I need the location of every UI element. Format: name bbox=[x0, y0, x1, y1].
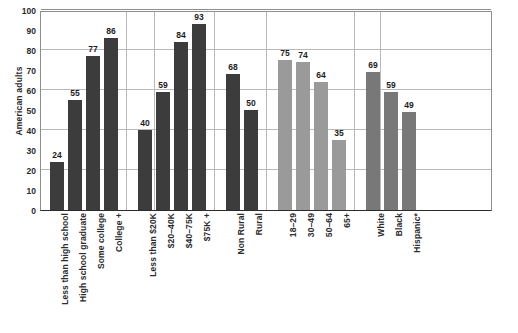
bar-value-label: 84 bbox=[176, 30, 185, 40]
x-axis-category-labels: Less than high schoolHigh school graduat… bbox=[40, 213, 492, 333]
y-axis-tick-label: 60 bbox=[27, 86, 36, 96]
bar bbox=[192, 24, 206, 210]
bar bbox=[314, 82, 328, 210]
x-axis-tick-label: High school graduate bbox=[78, 213, 88, 302]
bar bbox=[384, 92, 398, 210]
y-axis-tick-label: 20 bbox=[27, 166, 36, 176]
bar-value-label: 35 bbox=[334, 128, 343, 138]
y-axis-tick-labels: 0102030405060708090100 bbox=[0, 0, 40, 230]
bar bbox=[278, 60, 292, 210]
x-axis-tick-label: 50–64 bbox=[324, 213, 334, 237]
bar bbox=[156, 92, 170, 210]
x-axis-tick-label: Less than $20K bbox=[148, 213, 158, 277]
x-axis-tick-label: $40–75K bbox=[184, 213, 194, 248]
bar-value-label: 74 bbox=[298, 50, 307, 60]
x-axis-tick-label: 65+ bbox=[342, 213, 352, 228]
bar-value-label: 24 bbox=[52, 150, 61, 160]
x-axis-tick-label: $20–40K bbox=[166, 213, 176, 248]
bar-value-label: 59 bbox=[386, 80, 395, 90]
x-axis-tick-label: College + bbox=[114, 213, 124, 252]
bar bbox=[296, 62, 310, 210]
bar-value-label: 49 bbox=[404, 100, 413, 110]
bar-series: 2455778640598493685075746435695949 bbox=[41, 12, 491, 210]
bar-value-label: 69 bbox=[368, 60, 377, 70]
plot-area: 2455778640598493685075746435695949 bbox=[40, 11, 492, 211]
x-axis-tick-label: Some college bbox=[96, 213, 106, 269]
bar-value-label: 55 bbox=[70, 88, 79, 98]
x-axis-tick-label: 18–29 bbox=[288, 213, 298, 237]
y-axis-tick-label: 80 bbox=[27, 46, 36, 56]
gridline-horizontal bbox=[41, 9, 491, 10]
y-axis-tick-label: 50 bbox=[27, 106, 36, 116]
bar-chart: American adults 0102030405060708090100 2… bbox=[0, 0, 518, 333]
x-axis-tick-label: Hispanic* bbox=[412, 213, 422, 253]
y-axis-tick-label: 0 bbox=[31, 206, 36, 216]
bar bbox=[86, 56, 100, 210]
y-axis-tick-label: 10 bbox=[27, 186, 36, 196]
bar bbox=[402, 112, 416, 210]
x-axis-tick-label: Black bbox=[394, 213, 404, 236]
bar bbox=[174, 42, 188, 210]
y-axis-tick-label: 90 bbox=[27, 26, 36, 36]
bar bbox=[366, 72, 380, 210]
y-axis-tick-label: 70 bbox=[27, 66, 36, 76]
bar-value-label: 68 bbox=[228, 62, 237, 72]
x-axis-tick-label: Non Rural bbox=[236, 213, 246, 255]
bar-value-label: 59 bbox=[158, 80, 167, 90]
y-axis-tick-label: 100 bbox=[22, 6, 36, 16]
x-axis-tick-label: Rural bbox=[254, 213, 264, 235]
bar bbox=[104, 38, 118, 210]
bar-value-label: 50 bbox=[246, 98, 255, 108]
bar bbox=[332, 140, 346, 210]
bar-value-label: 40 bbox=[140, 118, 149, 128]
bar-value-label: 75 bbox=[280, 48, 289, 58]
x-axis-tick-label: White bbox=[376, 213, 386, 237]
x-axis-tick-label: $75K + bbox=[202, 213, 212, 241]
bar bbox=[138, 130, 152, 210]
bar bbox=[244, 110, 258, 210]
y-axis-tick-label: 40 bbox=[27, 126, 36, 136]
x-axis-tick-label: 30–49 bbox=[306, 213, 316, 237]
bar bbox=[226, 74, 240, 210]
bar-value-label: 86 bbox=[106, 26, 115, 36]
bar-value-label: 93 bbox=[194, 12, 203, 22]
x-axis-tick-label: Less than high school bbox=[60, 213, 70, 305]
bar-value-label: 64 bbox=[316, 70, 325, 80]
bar bbox=[68, 100, 82, 210]
bar bbox=[50, 162, 64, 210]
bar-value-label: 77 bbox=[88, 44, 97, 54]
y-axis-tick-label: 30 bbox=[27, 146, 36, 156]
